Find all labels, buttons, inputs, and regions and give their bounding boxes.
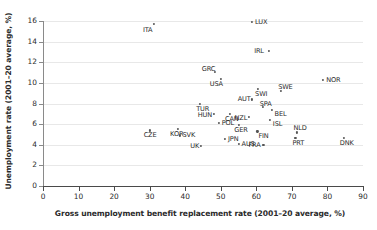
data-point[interactable] [269,119,271,121]
y-tick-mark [39,165,43,166]
x-axis-title: Gross unemployment benefit replacement r… [40,209,360,218]
y-tick-label: 4 [13,141,37,149]
gridline [43,145,363,146]
x-tick-mark [43,187,44,191]
gridline [43,124,363,125]
y-tick-label: 16 [13,17,37,25]
gridline [43,83,363,84]
data-point-label: JPN [228,136,238,143]
x-tick-mark [221,187,222,191]
x-tick-mark [79,187,80,191]
data-point-label: POL [222,120,234,127]
data-point-label: LUX [255,19,267,26]
gridline [43,21,363,22]
x-tick-label: 10 [66,192,92,201]
data-point[interactable] [271,109,273,111]
data-point-label: SPA [260,101,272,108]
data-point-label: BEL [275,111,287,118]
data-point-label: ISL [273,121,282,128]
y-tick-label: 0 [13,182,37,190]
x-tick-label: 40 [172,192,198,201]
data-point[interactable] [268,50,270,52]
data-point-label: HUN [198,112,212,119]
x-tick-mark [185,187,186,191]
y-tick-mark [39,62,43,63]
y-tick-label: 12 [13,58,37,66]
data-point-label: AUT [238,96,251,103]
data-point-label: NLD [294,125,307,132]
data-point-label: USA [210,81,223,88]
y-tick-label: 10 [13,79,37,87]
x-tick-mark [327,187,328,191]
data-point-label: GRC [202,66,216,73]
data-point-label: IRL [254,48,264,55]
x-tick-label: 30 [137,192,163,201]
x-tick-label: 90 [350,192,376,201]
y-axis-line [43,21,44,187]
data-point[interactable] [224,137,226,139]
x-tick-label: 70 [279,192,305,201]
data-point-label: PRT [292,140,304,147]
data-point[interactable] [200,145,202,147]
data-point-label: KOR [170,131,183,138]
x-axis-line [43,186,364,187]
gridline [43,62,363,63]
data-point[interactable] [213,113,215,115]
x-tick-label: 0 [30,192,56,201]
data-point-label: NOR [326,77,340,84]
x-tick-mark [256,187,257,191]
y-tick-mark [39,42,43,43]
data-point-label: GER [234,127,247,134]
y-tick-mark [39,83,43,84]
data-point-label: NZL [235,115,248,122]
x-tick-label: 60 [243,192,269,201]
data-point[interactable] [153,23,155,25]
x-tick-label: 80 [314,192,340,201]
plot-area: ITALUXIRLGRCUSANORSWESWIAUTTURSPABELHUNC… [43,21,363,186]
x-tick-label: 50 [208,192,234,201]
y-tick-mark [39,21,43,22]
data-point[interactable] [322,79,324,81]
data-point-label: ITA [143,27,153,34]
gridline [43,165,363,166]
data-point-label: SVK [183,132,196,139]
y-tick-mark [39,124,43,125]
x-tick-mark [114,187,115,191]
data-point-label: DNK [340,140,354,147]
y-tick-label: 8 [13,100,37,108]
y-tick-label: 6 [13,120,37,128]
y-tick-mark [39,145,43,146]
data-point-label: SWI [255,91,267,98]
x-tick-mark [150,187,151,191]
data-point-label: FIN [258,133,268,140]
data-point-label: SWE [278,84,292,91]
x-tick-mark [292,187,293,191]
data-point-label: UK [190,143,199,150]
scatter-chart: Unemployment rate (2001–20 average, %) G… [0,0,377,230]
y-tick-label: 2 [13,161,37,169]
data-point[interactable] [251,21,253,23]
y-tick-mark [39,104,43,105]
x-tick-mark [363,187,364,191]
data-point[interactable] [247,116,249,118]
y-tick-label: 14 [13,38,37,46]
gridline [43,42,363,43]
x-tick-label: 20 [101,192,127,201]
data-point-label: FRA [248,142,260,149]
data-point-label: CZE [144,132,157,139]
